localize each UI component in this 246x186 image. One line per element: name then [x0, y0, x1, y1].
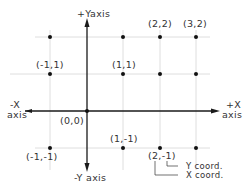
- neg-x-axis-label-2: axis: [7, 109, 27, 120]
- neg-y-arrow-icon: [85, 163, 90, 172]
- point-2-1: [158, 72, 162, 76]
- x-coord-annotation: X coord.: [186, 170, 223, 180]
- point-label-1-m1: (1,-1): [110, 133, 138, 144]
- point-label-2-m1: (2,-1): [148, 150, 176, 161]
- pos-x-axis-label-2: axis: [222, 109, 242, 120]
- point-label-1-1: (1,1): [112, 59, 136, 70]
- point-3-2: [194, 35, 198, 39]
- point-label-2-2: (2,2): [148, 18, 172, 29]
- coordinate-diagram: +Yaxis -Y axis +X axis -X axis (0,0) (2,…: [0, 0, 246, 186]
- point-1-1: [121, 72, 125, 76]
- pos-y-axis-label: +Yaxis: [77, 8, 110, 19]
- point-m1-m1: [48, 146, 52, 150]
- y-coord-leader: [167, 161, 178, 166]
- point-m1-2: [48, 35, 52, 39]
- neg-y-axis-label: -Y axis: [74, 172, 106, 183]
- x-coord-leader: [155, 161, 178, 175]
- coord-leaders: [155, 161, 178, 175]
- point-3-m1: [194, 146, 198, 150]
- point-1-m1: [121, 146, 125, 150]
- point-m1-1: [48, 72, 52, 76]
- pos-y-arrow-icon: [85, 18, 90, 27]
- origin-label: (0,0): [60, 115, 84, 126]
- point-2-2: [158, 35, 162, 39]
- point-origin: [85, 109, 89, 113]
- pos-x-arrow-icon: [211, 109, 220, 114]
- grid: [10, 30, 210, 170]
- point-3-1: [194, 72, 198, 76]
- point-label-m1-m1: (-1,-1): [26, 151, 57, 162]
- point-label-m1-1: (-1,1): [36, 59, 64, 70]
- point-label-3-2: (3,2): [183, 18, 207, 29]
- point-1-2: [121, 35, 125, 39]
